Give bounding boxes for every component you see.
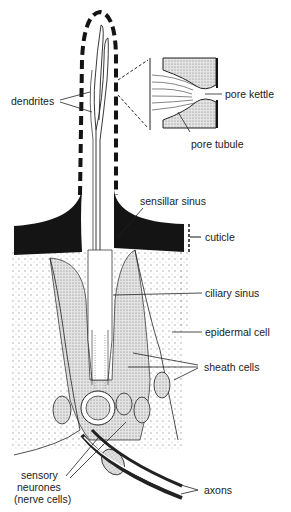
diagram-drawing <box>0 0 291 512</box>
label-ciliary-sinus: ciliary sinus <box>205 288 259 299</box>
label-sensory-neurones-line2: neurones <box>17 482 61 493</box>
pore-detail-inset <box>118 58 218 130</box>
label-sheath-cells: sheath cells <box>204 362 259 373</box>
label-sensory-neurones-line1: sensory <box>21 470 58 481</box>
cuticle-left <box>14 190 82 255</box>
sensillum-diagram: dendrites pore kettle pore tubule sensil… <box>0 0 291 512</box>
label-cuticle: cuticle <box>205 232 235 243</box>
label-dendrites: dendrites <box>11 96 54 107</box>
label-pore-tubule: pore tubule <box>191 139 244 150</box>
hair-shaft-wall <box>80 12 116 195</box>
label-sensillar-sinus: sensillar sinus <box>140 196 206 207</box>
nucleus <box>53 396 71 424</box>
label-sensory-neurones-line3: (nerve cells) <box>14 494 71 505</box>
label-epidermal-cell: epidermal cell <box>205 327 270 338</box>
label-axons: axons <box>204 485 232 496</box>
label-pore-kettle: pore kettle <box>225 89 274 100</box>
